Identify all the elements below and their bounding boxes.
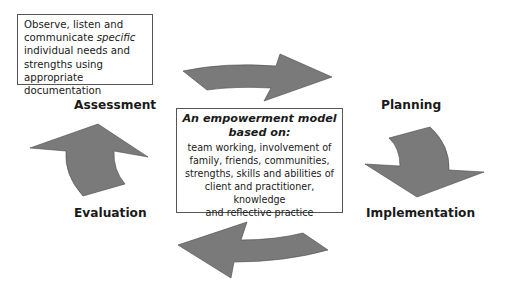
arrow-up-icon [30, 124, 148, 196]
arrow-right-icon [183, 54, 332, 101]
center-body-line: strengths, skills and abilities of [181, 167, 338, 180]
arrow-down-icon [365, 127, 484, 197]
observation-note-box: Observe, listen and communicate specific… [17, 14, 153, 85]
empowerment-model-box: An empowerment model based on: team work… [176, 108, 343, 213]
center-body-line: and reflective practice [181, 206, 338, 219]
center-body-line: client and practitioner, knowledge [181, 180, 338, 206]
stage-label-evaluation: Evaluation [74, 206, 147, 220]
note-line: documentation [24, 84, 146, 97]
arrow-left-icon [178, 222, 328, 278]
center-body: team working, involvement of family, fri… [181, 141, 338, 219]
note-line: communicate specific [24, 31, 146, 44]
stage-label-planning: Planning [381, 98, 441, 112]
note-line: individual needs and [24, 44, 146, 57]
note-line: Observe, listen and [24, 18, 146, 31]
stage-label-assessment: Assessment [74, 98, 156, 112]
center-title-line: based on: [181, 126, 338, 140]
note-line: strengths using appropriate [24, 58, 146, 84]
center-body-line: team working, involvement of [181, 141, 338, 154]
center-title-line: An empowerment model [181, 112, 338, 126]
stage-label-implementation: Implementation [366, 206, 475, 220]
center-body-line: family, friends, communities, [181, 154, 338, 167]
note-emphasis: specific [97, 32, 136, 43]
